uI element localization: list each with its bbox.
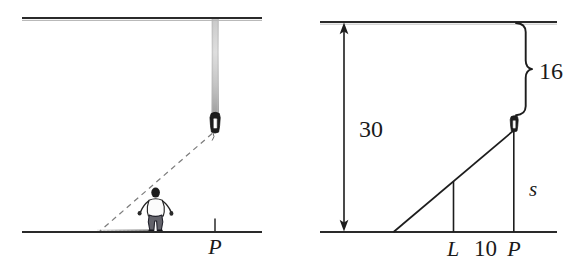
panel-realistic-scene: P [0, 0, 289, 272]
panel-geometric-abstraction: 30 16 s [289, 0, 578, 272]
figure-container: P 30 16 [0, 0, 578, 272]
lamp-point-icon [510, 116, 518, 132]
lamp-suspension-pole-icon [212, 19, 220, 114]
label-point-p-left: P [207, 234, 221, 259]
label-drop-16: 16 [539, 58, 563, 84]
height-dimension-arrow [340, 23, 349, 232]
hanging-lamp-icon [210, 112, 220, 140]
label-point-p-right: P [506, 236, 520, 261]
label-shadow-tip-L: L [446, 236, 459, 261]
curly-brace-16 [516, 23, 532, 115]
ceiling-line [22, 18, 262, 20]
label-distance-10: 10 [474, 236, 497, 261]
label-height-30: 30 [359, 116, 383, 142]
label-s: s [529, 177, 537, 201]
